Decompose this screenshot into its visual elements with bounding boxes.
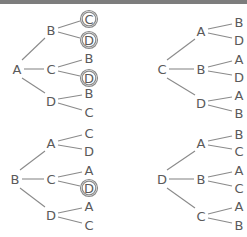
tree-leaf-node: C [84, 126, 93, 141]
tree-branch-node: A [197, 136, 206, 151]
tree-edge [208, 181, 232, 186]
tree-leaf-node: B [235, 15, 244, 30]
tree-root-node: B [11, 172, 20, 187]
tree-edge [208, 105, 232, 111]
tree-branch-node: A [197, 24, 206, 39]
tree-leaf-node: B [235, 218, 244, 233]
tree-edge [20, 188, 45, 207]
tree-edge [58, 135, 82, 141]
tree-root-node: C [157, 62, 166, 77]
tree-edge [208, 24, 232, 29]
tree-branch-node: D [196, 96, 206, 111]
tree-edge [167, 188, 195, 208]
tree-leaf-node: B [85, 86, 94, 101]
tree-leaf-node: C [84, 12, 93, 27]
tree-root-node: D [157, 172, 167, 187]
tree-edge [208, 33, 232, 38]
tree-edge [22, 38, 45, 60]
tree-leaf-node: A [85, 199, 94, 214]
tree-edge [58, 60, 82, 67]
tree-edge [58, 21, 80, 28]
tree-leaf-node: A [235, 52, 244, 67]
tree-edge [58, 145, 82, 149]
tree-leaf-node: C [84, 105, 93, 120]
tree-branch-node: C [46, 62, 55, 77]
tree-edge [208, 61, 232, 67]
tree-branch-node: B [47, 23, 56, 38]
tree-root-node: A [13, 62, 22, 77]
tree-leaf-node: B [235, 127, 244, 142]
tree-leaf-node: D [84, 144, 94, 159]
tree-edge [20, 151, 45, 170]
tree-leaf-node: A [235, 88, 244, 103]
tree-edge [167, 39, 195, 60]
tree-edge [58, 95, 82, 99]
tree-edge [58, 172, 82, 177]
tree-leaf-node: D [234, 70, 244, 85]
tree-leaf-node: B [235, 106, 244, 121]
tree-leaf-node: C [234, 144, 243, 159]
tree-edge [208, 97, 232, 101]
tree-leaf-node: D [234, 33, 244, 48]
tree-edge [208, 172, 232, 177]
tree-edge [58, 181, 80, 186]
tree-branch-node: B [197, 62, 206, 77]
tree-edge [58, 103, 82, 110]
tree-branch-node: A [47, 136, 56, 151]
tree-branch-node: D [46, 208, 56, 223]
tree-edge [167, 151, 195, 170]
tree-leaf-node: C [84, 218, 93, 233]
tree-edge [167, 78, 195, 95]
tree-edge [208, 218, 232, 223]
tree-leaf-node: A [235, 199, 244, 214]
tree-edge [58, 32, 80, 38]
tree-edge [58, 71, 80, 76]
tree-edge [208, 71, 232, 75]
tree-branch-node: C [196, 209, 205, 224]
tree-leaf-node: C [234, 181, 243, 196]
tree-edge [22, 78, 45, 93]
tree-edge [208, 208, 232, 214]
tree-diagrams: CDBBDCBCDABDAADBABDCCDAADCACDBBCAACBABCD [0, 0, 247, 237]
tree-edge [58, 208, 82, 213]
tree-branch-node: D [46, 94, 56, 109]
tree-leaf-node: A [85, 163, 94, 178]
tree-edge [208, 136, 232, 141]
tree-branch-node: B [197, 172, 206, 187]
tree-leaf-node: A [235, 163, 244, 178]
tree-edge [208, 145, 232, 149]
tree-edge [58, 217, 82, 223]
tree-leaf-node: B [85, 51, 94, 66]
tree-branch-node: C [46, 172, 55, 187]
